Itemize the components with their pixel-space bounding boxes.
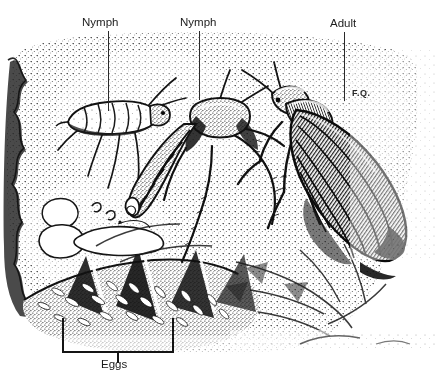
nymph-left-leader (108, 31, 109, 111)
eggs-bracket (62, 318, 176, 363)
label-eggs: Eggs (101, 358, 127, 370)
label-adult: Adult (330, 17, 356, 29)
illustration-page: LIFE CYCLE (0, 0, 438, 389)
label-nymph-middle: Nymph (180, 16, 216, 28)
eggs-bracket-right-arm (172, 318, 174, 353)
trailing-stipple (230, 330, 438, 352)
adult-leader (344, 32, 345, 101)
eggs-bracket-left-arm (62, 318, 64, 353)
label-nymph-left: Nymph (82, 16, 118, 28)
artist-signature: F.Q. (352, 88, 371, 98)
nymph-middle-leader (199, 31, 200, 100)
